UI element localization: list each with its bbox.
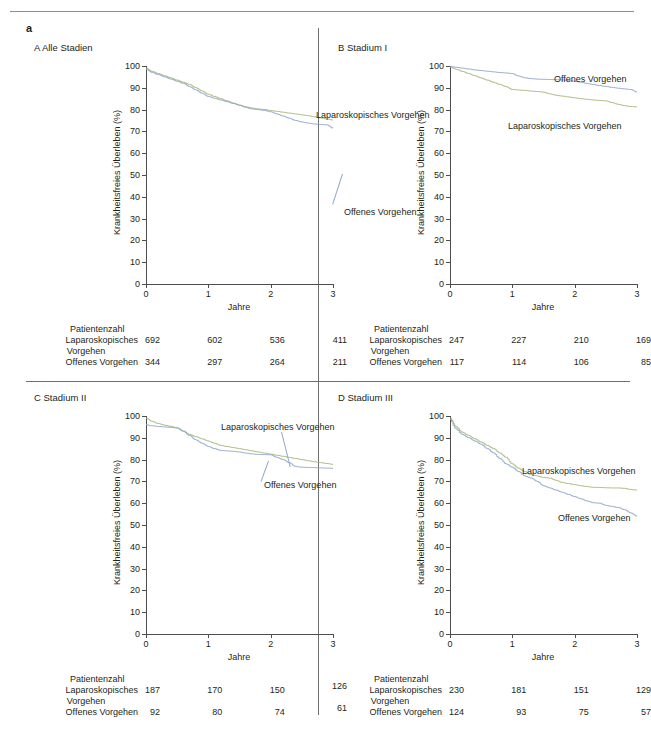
x-axis-tick xyxy=(146,634,147,638)
y-axis-tick-label: 60 xyxy=(130,499,140,508)
y-axis-tick-label: 70 xyxy=(434,127,444,136)
panel-title: A Alle Stadien xyxy=(34,42,93,53)
x-axis-tick xyxy=(208,284,209,288)
risk-row-label-laparoskopisch-cont: Vorgehen xyxy=(338,696,442,707)
risk-table-cell: 75 xyxy=(559,707,589,718)
risk-table-cell: 692 xyxy=(130,335,160,346)
y-axis-title: Krankheitsfreies Überleben (%) xyxy=(416,110,426,235)
risk-table-cell: 210 xyxy=(559,335,589,346)
x-axis-tick xyxy=(637,634,638,638)
x-axis-line xyxy=(146,284,333,285)
y-axis-tick-label: 60 xyxy=(434,149,444,158)
y-axis-tick-label: 80 xyxy=(130,105,140,114)
risk-table-cell: 264 xyxy=(255,357,285,368)
x-axis-tick xyxy=(146,284,147,288)
y-axis-tick-label: 40 xyxy=(434,542,444,551)
y-axis-tick-label: 50 xyxy=(434,171,444,180)
y-axis-tick-label: 10 xyxy=(434,258,444,267)
x-axis-tick-label: 2 xyxy=(572,290,577,299)
risk-row-label-laparoskopisch: Laparoskopisches xyxy=(34,685,138,696)
x-axis-tick xyxy=(208,634,209,638)
risk-table-header: Patientenzahl xyxy=(374,324,429,335)
risk-table-cell: 74 xyxy=(255,707,285,718)
y-axis-tick-label: 40 xyxy=(434,192,444,201)
y-axis-tick-label: 30 xyxy=(434,214,444,223)
series-label-laparoskopisch: Laparoskopisches Vorgehen xyxy=(221,422,335,432)
curve-laparoskopisch xyxy=(450,418,637,490)
y-axis-tick-label: 70 xyxy=(434,477,444,486)
y-axis-tick-label: 70 xyxy=(130,127,140,136)
x-axis-tick xyxy=(271,634,272,638)
x-axis-tick-label: 2 xyxy=(268,290,273,299)
x-axis-title: Jahre xyxy=(532,652,555,662)
risk-row-label-laparoskopisch-cont: Vorgehen xyxy=(34,346,138,357)
plot-area: 01020304050607080901000123JahreKrankheit… xyxy=(450,416,637,634)
risk-table-cell: 150 xyxy=(255,685,285,696)
risk-table-cell: 297 xyxy=(192,357,222,368)
curve-laparoskopisch xyxy=(146,68,333,120)
y-axis-tick-label: 50 xyxy=(434,521,444,530)
x-axis-tick-label: 1 xyxy=(206,290,211,299)
y-axis-tick-label: 20 xyxy=(130,236,140,245)
x-axis-tick xyxy=(271,284,272,288)
y-axis-tick-label: 40 xyxy=(130,192,140,201)
panel-b-stadium-i: B Stadium I01020304050607080901000123Jah… xyxy=(330,42,648,392)
x-axis-tick-label: 0 xyxy=(143,290,148,299)
series-label-offen: Offenes Vorgehen xyxy=(264,480,336,490)
survival-curves xyxy=(450,66,637,284)
risk-table-cell: 169 xyxy=(621,335,651,346)
x-axis-tick xyxy=(450,634,451,638)
x-axis-line xyxy=(450,634,637,635)
y-axis-tick-label: 90 xyxy=(434,83,444,92)
x-axis-tick-label: 2 xyxy=(572,640,577,649)
y-axis-tick-label: 30 xyxy=(434,564,444,573)
y-axis-tick-label: 80 xyxy=(130,455,140,464)
risk-table-cell: 536 xyxy=(255,335,285,346)
x-axis-tick xyxy=(512,634,513,638)
y-axis-tick-label: 10 xyxy=(434,608,444,617)
y-axis-tick-label: 30 xyxy=(130,564,140,573)
risk-table-cell: 151 xyxy=(559,685,589,696)
risk-row-label-offen: Offenes Vorgehen xyxy=(338,357,442,368)
y-axis-tick-label: 90 xyxy=(130,433,140,442)
x-axis-tick-label: 0 xyxy=(447,640,452,649)
y-axis-tick-label: 60 xyxy=(130,149,140,158)
risk-row-label-offen: Offenes Vorgehen xyxy=(34,357,138,368)
y-axis-tick-label: 20 xyxy=(130,586,140,595)
series-label-laparoskopisch: Laparoskopisches Vorgehen xyxy=(508,121,622,131)
y-axis-tick-label: 50 xyxy=(130,521,140,530)
risk-table-header: Patientenzahl xyxy=(70,324,125,335)
risk-table-cell: 602 xyxy=(192,335,222,346)
series-label-offen: Offenes Vorgehen xyxy=(558,513,630,523)
y-axis-title: Krankheitsfreies Überleben (%) xyxy=(416,460,426,585)
y-axis-tick-label: 0 xyxy=(135,280,140,289)
y-axis-title: Krankheitsfreies Überleben (%) xyxy=(112,460,122,585)
panel-title: B Stadium I xyxy=(338,42,387,53)
panel-d-stadium-iii: D Stadium III01020304050607080901000123J… xyxy=(330,392,648,732)
series-label-offen: Offenes Vorgehen xyxy=(554,74,626,84)
plot-area: 01020304050607080901000123JahreKrankheit… xyxy=(450,66,637,284)
x-axis-tick-label: 0 xyxy=(143,640,148,649)
risk-table-cell: 187 xyxy=(130,685,160,696)
x-axis-tick-label: 0 xyxy=(447,290,452,299)
risk-row-label-offen: Offenes Vorgehen xyxy=(34,707,138,718)
survival-curves xyxy=(146,416,333,634)
y-axis-tick-label: 10 xyxy=(130,258,140,267)
risk-table-header: Patientenzahl xyxy=(70,674,125,685)
risk-table-cell: 80 xyxy=(192,707,222,718)
x-axis-title: Jahre xyxy=(228,652,251,662)
y-axis-tick-label: 0 xyxy=(439,630,444,639)
y-axis-tick-label: 20 xyxy=(434,236,444,245)
top-divider-rule xyxy=(10,11,634,12)
risk-table-cell: 170 xyxy=(192,685,222,696)
x-axis-tick xyxy=(575,284,576,288)
y-axis-tick-label: 100 xyxy=(429,62,444,71)
risk-row-label-laparoskopisch-cont: Vorgehen xyxy=(34,696,138,707)
risk-table-cell: 181 xyxy=(496,685,526,696)
risk-row-label-laparoskopisch: Laparoskopisches xyxy=(34,335,138,346)
y-axis-tick-label: 10 xyxy=(130,608,140,617)
y-axis-title: Krankheitsfreies Überleben (%) xyxy=(112,110,122,235)
risk-table-cell: 93 xyxy=(496,707,526,718)
survival-curves xyxy=(146,66,333,284)
survival-curves xyxy=(450,416,637,634)
